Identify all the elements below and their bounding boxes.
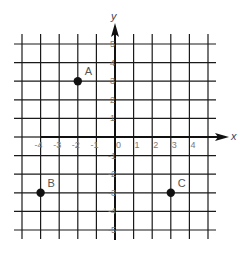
y-tick-label: 5 xyxy=(110,39,115,49)
x-tick-label: 0 xyxy=(116,140,121,150)
x-tick-label: -1 xyxy=(90,140,98,150)
x-tick-label: 2 xyxy=(153,140,158,150)
point-label: B xyxy=(48,177,55,189)
y-tick-label: -3 xyxy=(108,188,116,198)
point-c: C xyxy=(167,177,186,197)
point-b: B xyxy=(36,177,55,197)
x-axis: x xyxy=(14,130,237,142)
point-a: A xyxy=(74,65,93,85)
y-tick-label: 2 xyxy=(110,95,115,105)
x-tick-label: 1 xyxy=(135,140,140,150)
point-label: A xyxy=(85,65,93,77)
y-tick-label: 1 xyxy=(110,113,115,123)
x-tick-label: 3 xyxy=(172,140,177,150)
y-tick-label: -2 xyxy=(108,169,116,179)
x-tick-label: -2 xyxy=(72,140,80,150)
x-tick-label: -4 xyxy=(35,140,43,150)
point-marker-icon xyxy=(36,189,44,197)
y-tick-label: -1 xyxy=(108,151,116,161)
y-tick-label: 3 xyxy=(110,76,115,86)
x-tick-label: 4 xyxy=(190,140,195,150)
point-label: C xyxy=(178,177,186,189)
coordinate-plane: x y -4-3-2-101234 54321-1-2-3-4-5 ABC xyxy=(0,0,246,254)
y-axis-label: y xyxy=(110,10,118,22)
y-tick-label: -4 xyxy=(108,206,116,216)
x-axis-label: x xyxy=(230,130,237,142)
point-marker-icon xyxy=(74,77,82,85)
y-tick-label: -5 xyxy=(108,225,116,235)
x-tick-label: -3 xyxy=(53,140,61,150)
y-tick-label: 4 xyxy=(110,58,115,68)
point-marker-icon xyxy=(167,189,175,197)
